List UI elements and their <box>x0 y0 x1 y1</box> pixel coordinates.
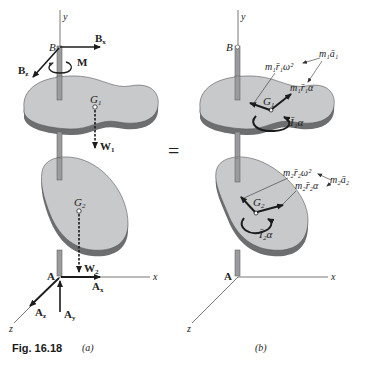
panel-b: y B G1 Ī₁α m₁r̄₁ω² m₁ā₁ m₁r̄₁α G2 <box>186 10 350 334</box>
point-b-label: B <box>49 41 56 53</box>
lower-shaft-stub <box>57 158 62 180</box>
upper-shaft-stub-b <box>235 76 240 100</box>
I1a-label: Ī₁α <box>289 116 303 128</box>
force-ax-label: Ax <box>92 280 104 294</box>
z-axis-label-b: z <box>186 323 191 334</box>
force-az-arrow <box>30 278 59 306</box>
point-a-label: A <box>47 270 55 282</box>
m1a1-label: m₁ā₁ <box>319 48 338 59</box>
figure-caption: Fig. 16.18 <box>12 342 62 354</box>
z-axis-b <box>192 277 238 323</box>
panel-a-label: (a) <box>82 342 94 354</box>
I2a-label: Ī₂α <box>258 228 272 240</box>
centroid-g1-marker <box>93 105 97 109</box>
point-a-label-b: A <box>224 270 232 282</box>
m1a1-leader-2 <box>308 61 322 82</box>
m1r1a-label: m₁r̄₁α <box>290 82 314 93</box>
z-axis-label: z <box>8 323 13 334</box>
m1a1-leader-1 <box>303 58 320 63</box>
y-axis-label-b: y <box>240 11 246 22</box>
equals-sign: = <box>168 140 179 162</box>
panel-b-label: (b) <box>255 342 267 354</box>
m1r1w2-label: m₁r̄₁ω² <box>265 61 294 72</box>
shaft-top-b <box>236 45 240 49</box>
force-bz-label: Bz <box>18 64 28 78</box>
weight-w1-label: W1 <box>100 140 115 154</box>
weight-w2-label: W2 <box>84 262 99 276</box>
m2r2a-label: m₂r̄₂α <box>295 180 319 191</box>
lower-shaft <box>57 250 62 276</box>
force-ay-label: Ay <box>64 308 76 322</box>
upper-plate <box>24 76 158 135</box>
force-az-label: Az <box>35 306 46 320</box>
centroid-g2-marker <box>77 209 81 213</box>
upper-shaft-stub <box>57 76 62 100</box>
m2r2w2-label: m₂r̄₂ω² <box>283 167 312 178</box>
y-axis-label: y <box>62 11 68 22</box>
panel-a: y G1 W1 G2 W2 x z <box>8 10 158 334</box>
point-b-label-b: B <box>226 41 233 53</box>
figure-canvas: y G1 W1 G2 W2 x z <box>0 0 368 365</box>
moment-m-label: M <box>77 56 88 68</box>
lower-shaft-stub-b <box>235 158 240 182</box>
force-bx-label: Bx <box>95 32 106 46</box>
lower-shaft-b <box>235 250 240 276</box>
m2a2-label: m₂ā₂ <box>330 174 350 185</box>
x-axis-label-b: x <box>330 271 336 282</box>
x-axis-label: x <box>152 271 158 282</box>
